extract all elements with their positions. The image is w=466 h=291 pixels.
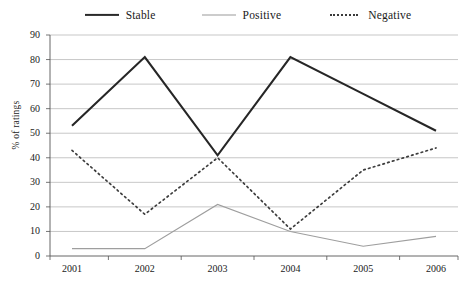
series-line-stable [72,57,436,155]
line-chart: Stable Positive Negative % of ratings 90… [0,0,466,291]
series-line-negative [72,148,436,229]
data-series [72,57,436,249]
plot-area [0,0,466,291]
gridlines [50,35,458,231]
series-line-positive [72,204,436,248]
axis-tickmarks [46,35,458,260]
